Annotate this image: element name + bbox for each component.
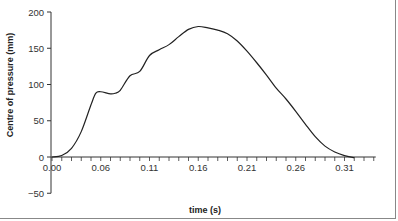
y-axis-title: Centre of pressure (mm) [5, 33, 15, 138]
y-tick-label: 100 [28, 79, 44, 90]
x-axis: 0.000.060.110.160.210.260.31 [43, 157, 376, 173]
x-axis-title: time (s) [189, 205, 221, 215]
y-tick-label: 150 [28, 43, 44, 54]
line-chart: 200150100500−50 0.000.060.110.160.210.26… [0, 0, 398, 221]
x-tick-label: 0.26 [287, 162, 306, 173]
y-tick-label: −50 [28, 188, 44, 199]
x-tick-label: 0.06 [92, 162, 111, 173]
x-tick-label: 0.00 [43, 162, 62, 173]
y-tick-label: 50 [33, 115, 44, 126]
x-tick-label: 0.21 [238, 162, 257, 173]
x-tick-label: 0.11 [141, 162, 159, 173]
x-tick-label: 0.16 [189, 162, 208, 173]
centre-of-pressure-line [52, 26, 354, 157]
y-tick-label: 0 [39, 152, 44, 163]
x-tick-label: 0.31 [335, 162, 354, 173]
y-tick-label: 200 [28, 7, 44, 18]
